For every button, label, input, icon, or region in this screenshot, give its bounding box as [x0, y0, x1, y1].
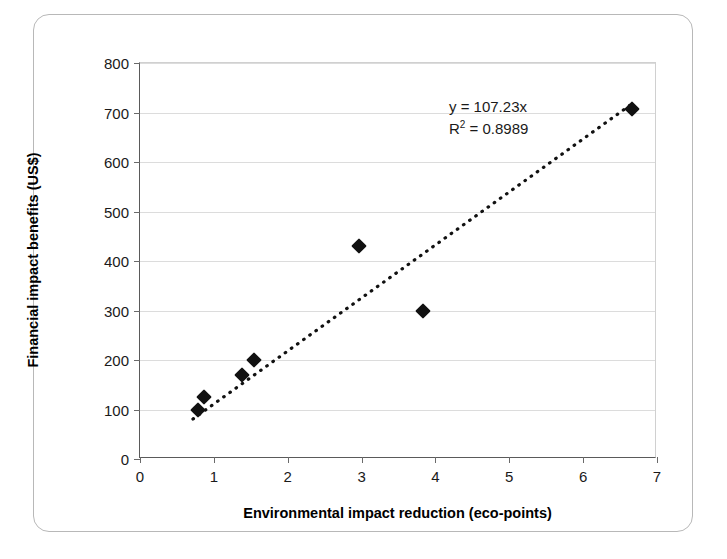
x-tick-mark — [583, 457, 584, 463]
x-tick-label: 7 — [653, 468, 661, 485]
x-tick-mark — [362, 457, 363, 463]
x-tick-label: 1 — [210, 468, 218, 485]
y-tick-label: 400 — [104, 253, 129, 270]
r-squared-prefix: R — [449, 120, 460, 137]
r-squared-value: = 0.8989 — [465, 120, 528, 137]
x-tick-mark — [435, 457, 436, 463]
x-tick-label: 0 — [136, 468, 144, 485]
x-tick-label: 3 — [357, 468, 365, 485]
trendline — [140, 63, 655, 457]
x-tick-mark — [140, 457, 141, 463]
x-tick-label: 4 — [431, 468, 439, 485]
y-tick-label: 600 — [104, 154, 129, 171]
r-squared-line: R2 = 0.8989 — [449, 118, 528, 140]
x-tick-mark — [509, 457, 510, 463]
y-axis-title: Financial impact benefits (US$) — [22, 62, 44, 458]
x-tick-mark — [288, 457, 289, 463]
equation-line: y = 107.23x — [449, 96, 528, 118]
x-tick-label: 2 — [284, 468, 292, 485]
x-tick-label: 6 — [579, 468, 587, 485]
x-axis-title: Environmental impact reduction (eco-poin… — [139, 505, 656, 521]
scatter-chart: Financial impact benefits (US$) 01002003… — [0, 0, 727, 559]
y-tick-label: 300 — [104, 302, 129, 319]
trendline-equation: y = 107.23x R2 = 0.8989 — [449, 96, 528, 140]
y-tick-label: 800 — [104, 55, 129, 72]
y-tick-label: 700 — [104, 104, 129, 121]
y-axis-title-text: Financial impact benefits (US$) — [25, 152, 41, 367]
y-tick-label: 0 — [121, 451, 129, 468]
y-tick-label: 100 — [104, 401, 129, 418]
x-tick-mark — [214, 457, 215, 463]
plot-area: 0100200300400500600700800 01234567 — [139, 62, 656, 458]
x-tick-mark — [657, 457, 658, 463]
y-tick-label: 200 — [104, 352, 129, 369]
x-tick-label: 5 — [505, 468, 513, 485]
y-tick-label: 500 — [104, 203, 129, 220]
